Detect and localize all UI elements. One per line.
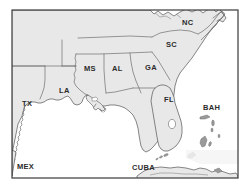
map-label-nc: NC [182, 19, 193, 27]
map-canvas [0, 0, 239, 195]
map-label-cuba: CUBA [132, 164, 155, 172]
map-label-al: AL [112, 65, 123, 73]
map-label-tx: TX [22, 100, 32, 108]
map-label-ga: GA [145, 64, 157, 72]
map-label-sc: SC [166, 41, 177, 49]
map-label-ms: MS [84, 65, 96, 73]
map-label-bah: BAH [203, 104, 220, 112]
lake-okeechobee [168, 119, 175, 128]
map-figure: TX LA MS AL GA FL SC NC MEX CUBA BAH [0, 0, 239, 195]
map-label-mex: MEX [17, 163, 34, 171]
map-label-fl: FL [164, 96, 174, 104]
map-label-la: LA [59, 87, 70, 95]
